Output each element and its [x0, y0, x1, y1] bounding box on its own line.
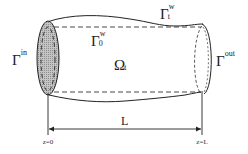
z-end-label: z=L — [196, 138, 207, 146]
outlet-label: Γout — [216, 53, 225, 69]
inlet-ellipse — [37, 21, 59, 95]
outlet-dashed-arc — [195, 26, 202, 92]
current-wall-label: Γwt — [160, 6, 169, 22]
length-label: L — [121, 114, 128, 129]
deformed-wall-bottom — [49, 92, 203, 102]
outlet-dashed-arc-outer — [203, 27, 208, 92]
inlet-label: Γin — [12, 52, 21, 68]
tube-diagram: Γin Γw0 Γwt Ωt Γout L z=0 z=L — [0, 0, 248, 154]
domain-label: Ωt — [114, 57, 125, 73]
z-start-label: z=0 — [43, 138, 54, 146]
reference-wall-label: Γw0 — [91, 33, 100, 49]
tube-drawing — [0, 0, 248, 154]
deformed-wall-top — [47, 16, 203, 26]
